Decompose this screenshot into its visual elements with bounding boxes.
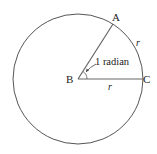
arc-label: r <box>136 37 140 48</box>
label-C: C <box>143 73 150 85</box>
label-A: A <box>112 11 120 23</box>
radius-BA <box>78 24 113 79</box>
angle-arc <box>83 72 87 80</box>
radian-diagram: A B C 1 radian r r <box>0 0 157 154</box>
angle-label: 1 radian <box>95 56 130 67</box>
radius-label: r <box>108 81 112 92</box>
label-B: B <box>66 73 73 85</box>
